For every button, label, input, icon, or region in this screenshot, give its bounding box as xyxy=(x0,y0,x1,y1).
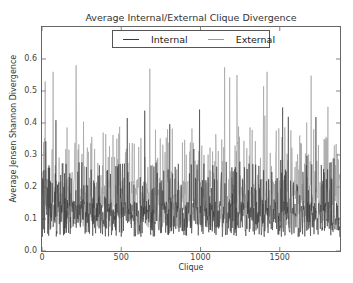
chart-title: Average Internal/External Clique Diverge… xyxy=(41,12,341,23)
x-tick-label: 1500 xyxy=(265,253,295,262)
x-tick-label: 1000 xyxy=(186,253,216,262)
line-series xyxy=(42,27,340,251)
legend-swatch-external xyxy=(208,39,224,40)
x-tick-label: 0 xyxy=(27,253,57,262)
legend-item-external: External xyxy=(208,34,275,45)
y-tick-label: 0.2 xyxy=(17,182,37,191)
y-tick-label: 0.3 xyxy=(17,150,37,159)
y-tick-label: 0.6 xyxy=(17,54,37,63)
legend-item-internal: Internal xyxy=(123,34,188,45)
legend-label-external: External xyxy=(236,34,275,45)
x-axis-label: Clique xyxy=(41,263,341,272)
y-tick-label: 0.5 xyxy=(17,86,37,95)
x-tick-label: 500 xyxy=(106,253,136,262)
y-tick-label: 0.1 xyxy=(17,214,37,223)
plot-area xyxy=(41,26,341,252)
legend: Internal External xyxy=(112,30,270,48)
legend-label-internal: Internal xyxy=(151,34,188,45)
legend-swatch-internal xyxy=(123,39,139,40)
y-tick-label: 0.4 xyxy=(17,118,37,127)
